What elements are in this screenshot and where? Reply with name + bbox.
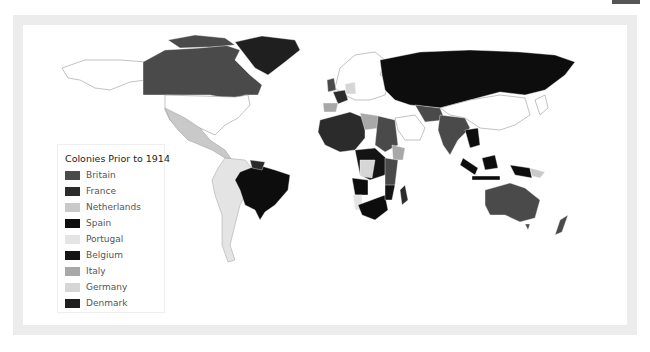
india (438, 115, 470, 155)
top-right-bar (612, 0, 640, 4)
legend-label: Netherlands (86, 202, 141, 212)
swatch-italy (65, 267, 80, 276)
swatch-portugal (65, 235, 80, 244)
brazil (235, 165, 290, 220)
legend-item-france: France (65, 185, 116, 197)
legend-label: Italy (86, 266, 106, 276)
greenland (235, 36, 300, 75)
legend-item-germany: Germany (65, 281, 127, 293)
legend-item-netherlands: Netherlands (65, 201, 141, 213)
swatch-britain (65, 171, 80, 180)
legend-title: Colonies Prior to 1914 (65, 153, 170, 164)
swatch-spain (65, 219, 80, 228)
borneo (482, 155, 498, 170)
north-africa-france (318, 112, 365, 152)
mozambique (385, 185, 395, 200)
java (472, 176, 500, 180)
arabia (395, 115, 425, 140)
australia (485, 183, 540, 222)
swatch-denmark (65, 299, 80, 308)
indochina (465, 128, 480, 148)
legend: Colonies Prior to 1914 Britain France Ne… (57, 144, 165, 313)
new-guinea (510, 165, 532, 178)
legend-label: Germany (86, 282, 127, 292)
britain-isles (327, 78, 336, 92)
new-guinea-east (530, 168, 545, 178)
legend-label: Portugal (86, 234, 123, 244)
swatch-france (65, 187, 80, 196)
alaska (62, 60, 146, 90)
madagascar (400, 185, 408, 205)
ethiopia-somalia (392, 145, 405, 160)
legend-item-belgium: Belgium (65, 249, 123, 261)
legend-item-britain: Britain (65, 169, 116, 181)
angola (352, 178, 368, 195)
legend-label: France (86, 186, 116, 196)
germany (345, 82, 356, 94)
south-africa (358, 195, 388, 220)
legend-label: Spain (86, 218, 111, 228)
legend-label: Britain (86, 170, 116, 180)
legend-item-portugal: Portugal (65, 233, 123, 245)
japan (535, 95, 548, 115)
tasmania (525, 224, 530, 230)
swatch-netherlands (65, 203, 80, 212)
new-zealand (555, 215, 568, 235)
spain (323, 103, 338, 112)
legend-item-italy: Italy (65, 265, 106, 277)
legend-label: Denmark (86, 298, 127, 308)
sumatra (460, 158, 478, 175)
legend-item-spain: Spain (65, 217, 111, 229)
swatch-belgium (65, 251, 80, 260)
swatch-germany (65, 283, 80, 292)
legend-label: Belgium (86, 250, 123, 260)
legend-item-denmark: Denmark (65, 297, 127, 309)
